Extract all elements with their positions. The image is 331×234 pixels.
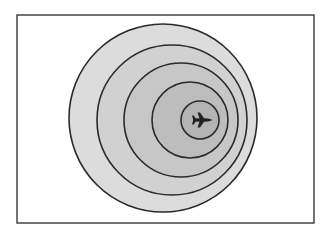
concentric-rings-diagram <box>0 0 331 234</box>
diagram-svg <box>0 0 331 234</box>
rings-group <box>69 24 257 212</box>
